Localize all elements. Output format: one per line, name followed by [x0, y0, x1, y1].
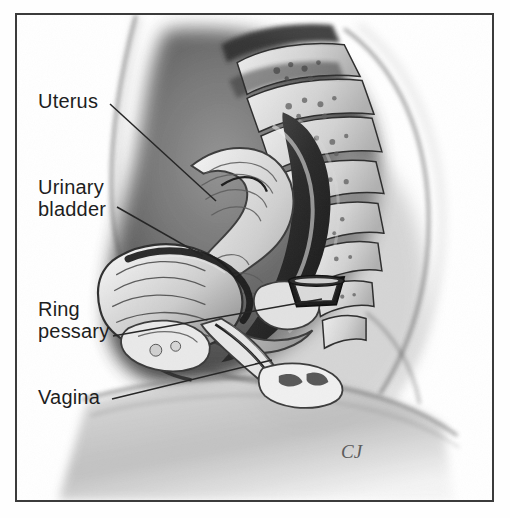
label-vagina: Vagina	[38, 386, 100, 408]
figure-root: Uterus Urinary bladder Ring pessary Vagi…	[0, 0, 510, 518]
illustration-frame	[15, 13, 494, 502]
label-uterus: Uterus	[38, 90, 98, 112]
label-urinary-bladder: Urinary bladder	[38, 176, 106, 220]
anatomical-illustration	[17, 15, 492, 500]
paper-grain	[17, 15, 492, 500]
label-ring-pessary: Ring pessary	[38, 298, 109, 342]
label-ring-pessary-line1: Ring	[38, 298, 80, 320]
label-urinary-bladder-line1: Urinary	[38, 176, 104, 198]
illustration-canvas	[17, 15, 492, 500]
artist-signature-mark: CJ	[341, 441, 362, 463]
label-urinary-bladder-line2: bladder	[38, 198, 106, 220]
label-uterus-line1: Uterus	[38, 90, 98, 112]
label-vagina-line1: Vagina	[38, 386, 100, 408]
label-ring-pessary-line2: pessary	[38, 320, 109, 342]
